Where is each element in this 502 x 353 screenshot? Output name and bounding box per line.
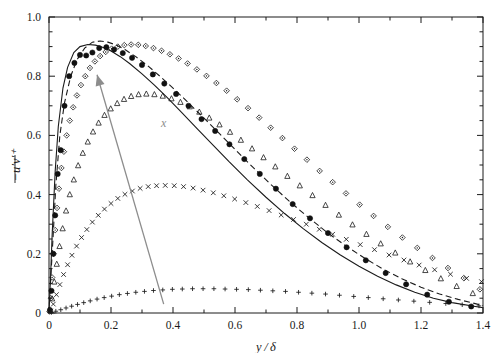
data-marker (273, 164, 278, 169)
x-tick-label: 1.0 (352, 319, 367, 331)
data-marker (151, 288, 156, 293)
data-marker (142, 289, 147, 294)
data-marker-dot (138, 44, 139, 45)
data-marker (152, 92, 157, 97)
data-marker (464, 276, 469, 281)
x-tick-label: 0.2 (104, 319, 119, 331)
data-marker (109, 294, 114, 299)
data-marker (125, 291, 130, 296)
data-marker (96, 213, 101, 218)
data-marker-dot (117, 46, 118, 47)
y-tick-label: 0.4 (27, 189, 42, 201)
data-marker-dot (196, 69, 197, 70)
data-marker-dot (61, 167, 62, 168)
data-marker (249, 146, 254, 151)
data-marker-dot (153, 47, 154, 48)
data-marker (273, 186, 278, 191)
data-marker (238, 137, 243, 142)
data-marker (139, 62, 144, 67)
data-marker (199, 117, 204, 122)
data-marker (85, 139, 90, 144)
data-marker-dot (463, 277, 464, 278)
data-marker (304, 222, 309, 227)
y-tick-label: 0.2 (27, 248, 42, 260)
data-marker (81, 300, 86, 305)
data-marker (372, 247, 377, 252)
data-marker (307, 216, 312, 221)
data-marker-dot (387, 226, 388, 227)
data-marker (469, 304, 474, 309)
data-marker-dot (69, 120, 70, 121)
data-marker (69, 304, 74, 309)
series-dashed-line (49, 41, 483, 313)
data-marker (454, 283, 459, 288)
x-tick-label: 1.2 (414, 319, 429, 331)
data-marker (136, 92, 141, 97)
data-marker (261, 155, 266, 160)
data-marker (79, 235, 84, 240)
data-marker (72, 60, 77, 65)
plot-frame (49, 17, 483, 313)
data-marker-dot (105, 51, 106, 52)
data-marker (296, 290, 301, 295)
data-marker-dot (99, 55, 100, 56)
x-tick-label: 0.4 (166, 319, 181, 331)
data-marker (58, 282, 63, 287)
data-marker-dot (402, 237, 403, 238)
data-marker (417, 263, 422, 268)
data-marker (109, 201, 114, 206)
data-marker (378, 241, 383, 246)
data-marker (180, 287, 185, 292)
data-marker (364, 231, 369, 236)
data-marker (62, 103, 67, 108)
arrow-shaft (97, 75, 164, 304)
data-marker-dot (447, 267, 448, 268)
x-tick-label: 0 (46, 319, 52, 331)
data-marker (75, 302, 80, 307)
data-marker (178, 99, 183, 104)
data-marker (60, 226, 65, 231)
data-marker (80, 150, 85, 155)
data-marker (285, 173, 290, 178)
data-marker (217, 122, 222, 127)
data-marker-dot (130, 44, 131, 45)
data-marker (222, 193, 227, 198)
y-axis-title: −u′v′⁺ (9, 148, 23, 183)
data-marker (102, 112, 107, 117)
data-marker-dot (94, 61, 95, 62)
data-marker (344, 245, 349, 250)
data-marker (104, 45, 109, 50)
data-marker-dot (479, 289, 480, 290)
data-marker (170, 287, 175, 292)
data-marker (358, 242, 363, 247)
data-marker (191, 186, 196, 191)
data-marker (344, 237, 349, 242)
data-marker (116, 196, 121, 201)
data-marker (129, 93, 134, 98)
data-marker (271, 289, 276, 294)
data-marker (381, 296, 386, 301)
data-marker (402, 258, 407, 263)
data-marker (223, 287, 228, 292)
data-marker-dot (169, 54, 170, 55)
data-marker-dot (247, 107, 248, 108)
data-marker (108, 106, 113, 111)
series-solid-line (49, 45, 483, 313)
data-marker-dot (63, 151, 64, 152)
data-marker-dot (72, 107, 73, 108)
data-marker-dot (282, 137, 283, 138)
series-line (49, 41, 483, 313)
x-axis-title: y / δ (254, 340, 276, 353)
data-marker (102, 207, 107, 212)
data-marker (448, 272, 453, 277)
data-marker-dot (55, 229, 56, 230)
arrow-head (96, 75, 105, 87)
data-marker (227, 142, 232, 147)
data-marker (393, 250, 398, 255)
data-marker (77, 52, 82, 57)
data-marker-dot (124, 44, 125, 45)
data-marker-dot (306, 159, 307, 160)
data-marker (366, 295, 371, 300)
data-marker (323, 292, 328, 297)
data-marker (121, 96, 126, 101)
